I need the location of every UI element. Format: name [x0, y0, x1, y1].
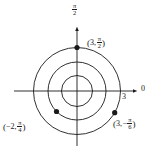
paren-close: )	[22, 122, 25, 132]
point-label-3-minus-pi-over-6: (3, −π6)	[113, 117, 135, 132]
data-point-minus-2-pi-over-4	[54, 109, 59, 114]
point-label-3-pi-over-2: (3, π2)	[87, 36, 105, 51]
radius-value: 3,	[116, 119, 122, 128]
data-point-3-minus-pi-over-6	[112, 110, 117, 115]
paren-close: )	[102, 38, 105, 48]
polar-plot-figure: π 2 0 3 (3, π2) (3, −π6) (−2, π4)	[0, 0, 152, 149]
polar-axis-label: 0	[141, 85, 145, 93]
angle-fraction: π6	[127, 117, 132, 132]
angle-fraction: π4	[17, 120, 22, 135]
pi-over-2-fraction: π 2	[72, 3, 77, 18]
vertical-axis-label: π 2	[72, 3, 77, 18]
radial-tick-label-3: 3	[122, 93, 126, 101]
paren-close: )	[132, 119, 135, 129]
radius-value: −2,	[6, 122, 17, 131]
angle-fraction: π2	[97, 36, 102, 51]
data-point-3-pi-over-2	[74, 45, 79, 50]
point-label-minus-2-pi-over-4: (−2, π4)	[3, 120, 25, 135]
radius-value: 3,	[90, 38, 96, 47]
